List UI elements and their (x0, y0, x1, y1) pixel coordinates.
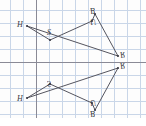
vertex-label-s-top: S (47, 29, 51, 37)
vertex-label-s-bottom: S (47, 79, 51, 87)
vertex-label-h-top: H (17, 21, 23, 29)
vertex-dots (26, 13, 119, 111)
vertex-label-u-top: U (90, 17, 96, 25)
vertex-label-b-bottom: B (90, 109, 95, 117)
vertex-label-u-bottom: U (90, 98, 96, 106)
bottom-margin (0, 118, 146, 126)
vertex-label-r-top: R (120, 50, 125, 58)
plot-area: HSBURRHSUB (0, 0, 146, 118)
pentagon-preimage-shape (27, 14, 118, 56)
vertex-label-b-top: B (90, 6, 95, 14)
geometry-figure-canvas: HSBURRHSUB (0, 0, 146, 126)
vertex-label-h-bottom: H (17, 95, 23, 103)
pentagon-image-shape (27, 68, 118, 110)
vertex-label-r-bottom: R (120, 61, 125, 69)
